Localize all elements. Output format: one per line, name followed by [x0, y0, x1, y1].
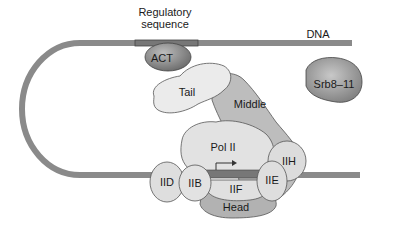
act-label: ACT	[151, 52, 173, 64]
regulatory-label-line2: sequence	[138, 18, 191, 30]
regulatory-label-line1: Regulatory	[138, 6, 191, 18]
middle-label: Middle	[234, 98, 266, 110]
iid-label: IID	[160, 176, 174, 188]
mediator-diagram	[0, 0, 414, 227]
iib-label: IIB	[188, 177, 201, 189]
pol-ii-label: Pol II	[210, 141, 235, 153]
dna-label: DNA	[306, 28, 329, 40]
iih-label: IIH	[282, 155, 296, 167]
iif-label: IIF	[230, 183, 243, 195]
iie-label: IIE	[265, 174, 278, 186]
srb8-11-label: Srb8–11	[314, 78, 355, 90]
head-label: Head	[223, 201, 249, 213]
regulatory-sequence-label: Regulatory sequence	[138, 6, 191, 30]
tail-label: Tail	[179, 86, 196, 98]
